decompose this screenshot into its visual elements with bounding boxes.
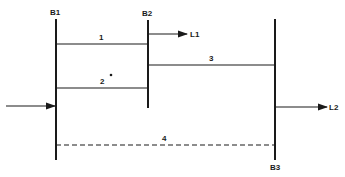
load-l1: L1 [148, 30, 200, 39]
one-line-diagram: B1 B2 B3 1 2 3 4 [0, 0, 345, 177]
line-4-label: 4 [162, 134, 167, 143]
load-l1-label: L1 [190, 30, 200, 39]
line-1: 1 [56, 33, 148, 44]
line-2-marker-dot [110, 74, 113, 77]
line-2: 2 [56, 74, 148, 88]
line-1-label: 1 [99, 33, 104, 42]
line-4: 4 [56, 134, 275, 145]
bus-b1: B1 [50, 8, 61, 160]
load-l2: L2 [275, 103, 339, 112]
bus-b2: B2 [142, 9, 153, 108]
bus-b3-label: B3 [270, 163, 281, 172]
line-2-label: 2 [100, 77, 105, 86]
bus-b2-label: B2 [142, 9, 153, 18]
bus-b1-label: B1 [50, 8, 61, 17]
load-l2-label: L2 [329, 103, 339, 112]
line-3-label: 3 [209, 54, 214, 63]
line-3: 3 [148, 54, 275, 65]
bus-b3: B3 [270, 19, 281, 172]
